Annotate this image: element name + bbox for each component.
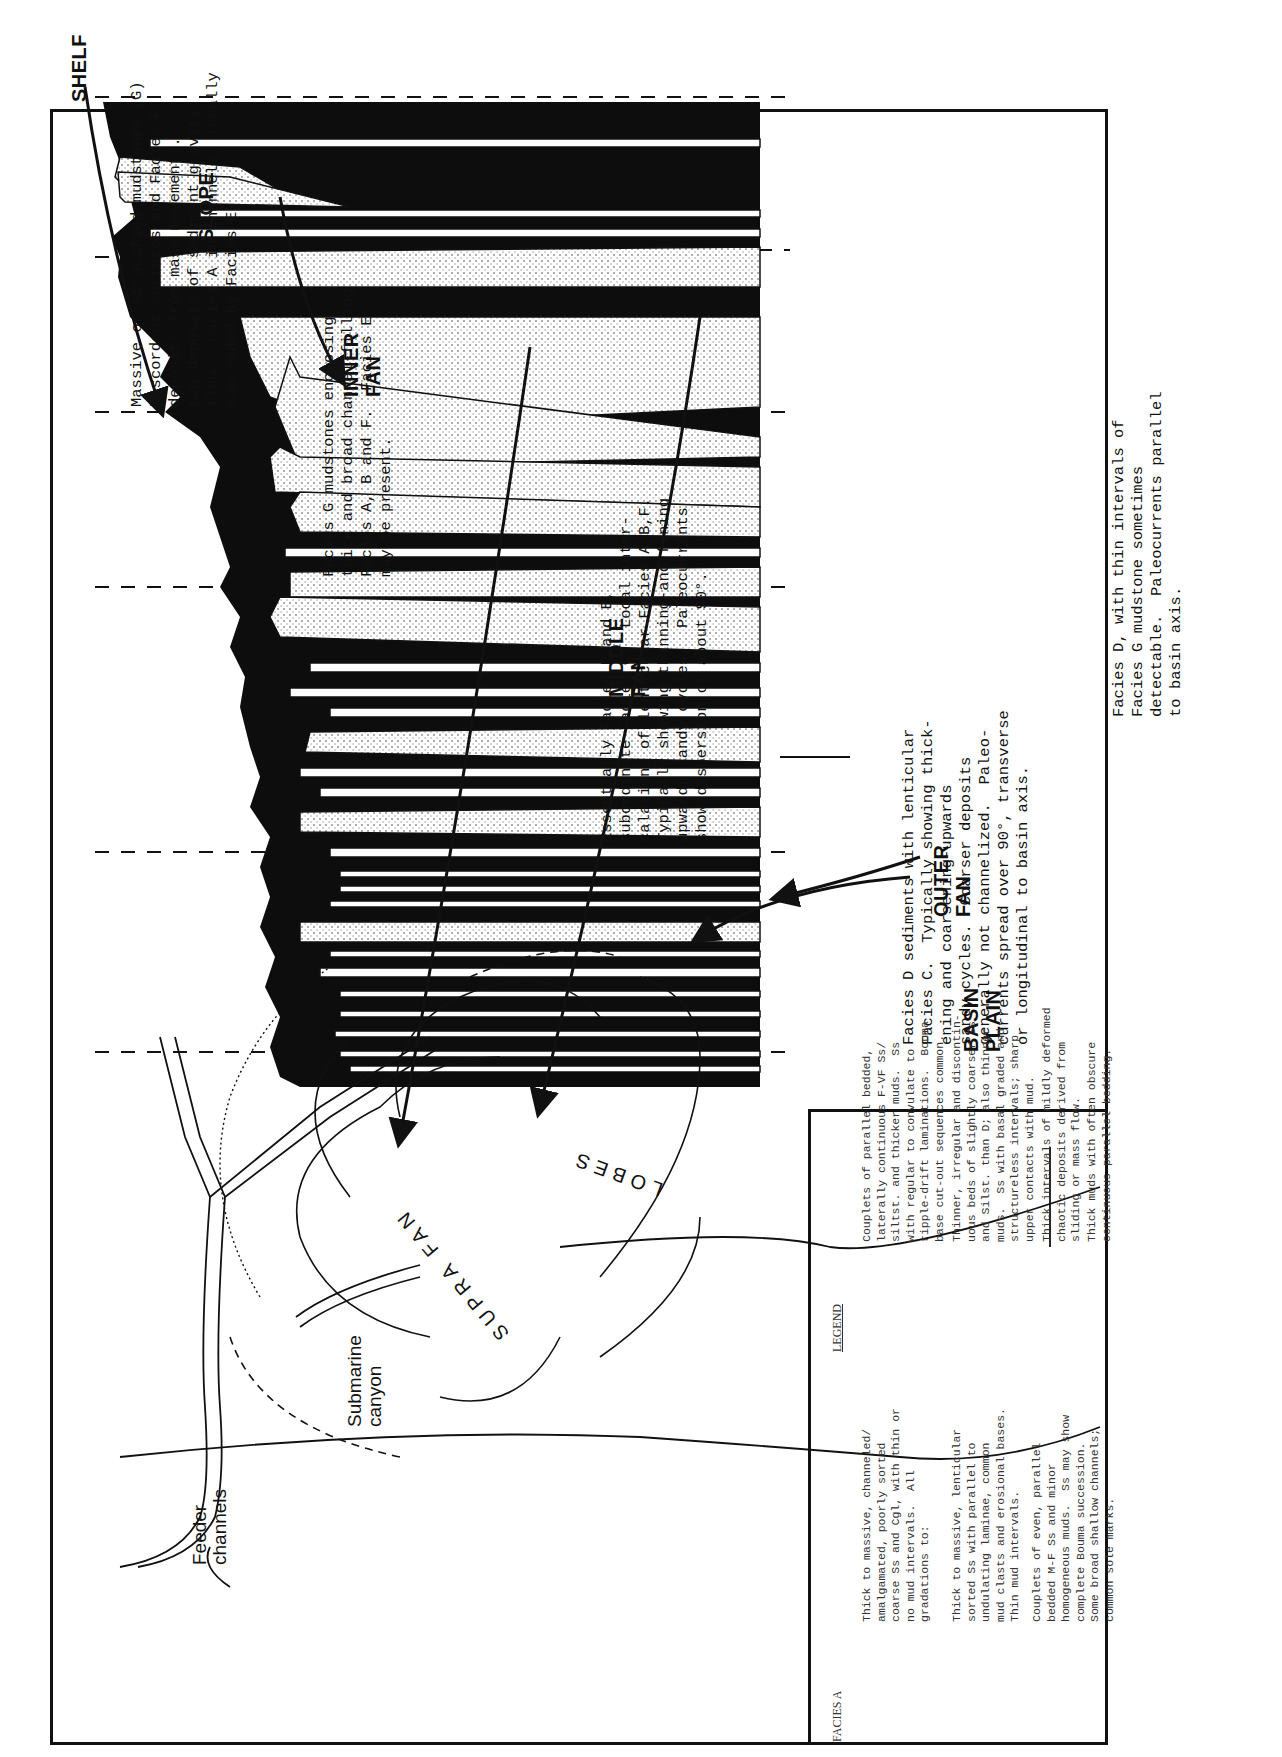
- description-basin-plain: Facies D, with thin intervals of Facies …: [1110, 391, 1186, 717]
- legend-text-facies-f: Thick intervals of mildly deformed chaot…: [1040, 1007, 1084, 1242]
- legend-text-facies-e: Thinner, irregular and discontin- uous b…: [950, 1014, 1037, 1242]
- legend-label: FACIES A: [830, 1562, 845, 1742]
- legend-text-facies-d: Couplets of parallel bedded, laterally c…: [860, 1021, 947, 1242]
- label-submarine-canyon: Submarine canyon: [345, 1335, 385, 1427]
- legend-item-facies-a: FACIES A: [830, 1562, 845, 1742]
- legend-title: LEGEND: [830, 1304, 845, 1352]
- zone-label-shelf: SHELF: [68, 34, 90, 102]
- legend-text-facies-b: Thick to massive, lenticular sorted Ss w…: [950, 1408, 1023, 1622]
- description-outer-fan: Facies D sediments with lenticular Facie…: [900, 710, 1033, 1045]
- description-slope: Massive or stratified mudstones (G) Disc…: [128, 72, 242, 407]
- legend-text-facies-g: Thick muds with often obscure continuous…: [1085, 1042, 1114, 1242]
- label-feeder-channels: Feeder channels: [190, 1489, 230, 1565]
- description-middle-fan: Essentially Facies D and E, subordinate …: [598, 498, 712, 842]
- legend-text-facies-a: Thick to massive, channeled/ amalgamated…: [860, 1408, 933, 1622]
- legend-text-facies-c: Couplets of even, parallel bedded M-F Ss…: [1030, 1415, 1117, 1622]
- description-inner-fan: Facies G mudstones enclosing thick and b…: [320, 289, 396, 577]
- facies-diagram: SHELF SLOPE INNER FAN MIDDLE FAN OUTER F…: [0, 0, 1282, 1757]
- canyon-channel: [120, 1037, 440, 1587]
